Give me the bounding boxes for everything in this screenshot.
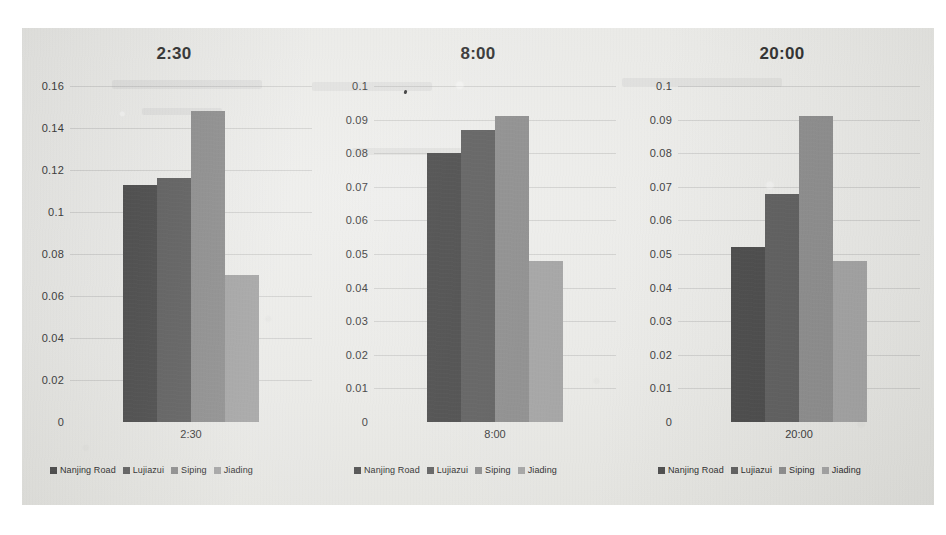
- y-axis-tick-label: 0.1: [326, 80, 368, 92]
- chart-title: 20:00: [630, 44, 934, 64]
- legend-item[interactable]: Jiading: [822, 465, 861, 475]
- bar: [731, 247, 765, 422]
- chart-panel: 2:3000.020.040.060.080.10.120.140.162:30…: [22, 28, 326, 505]
- x-axis-tick-label: 20:00: [678, 428, 920, 440]
- y-axis-tick-label: 0.04: [22, 332, 64, 344]
- legend-label: Lujiazui: [741, 465, 772, 475]
- y-axis-tick-label: 0.05: [630, 248, 672, 260]
- y-axis-tick-label: 0: [630, 416, 672, 428]
- plot-area: 00.010.020.030.040.050.060.070.080.090.1: [630, 86, 934, 422]
- y-axis-tick-label: 0.02: [630, 349, 672, 361]
- y-axis-tick-label: 0.03: [326, 315, 368, 327]
- bar: [833, 261, 867, 422]
- legend-swatch-icon: [427, 467, 434, 474]
- chart-title: 2:30: [22, 44, 326, 64]
- y-axis-tick-label: 0.05: [326, 248, 368, 260]
- legend-swatch-icon: [50, 467, 57, 474]
- chart-legend: Nanjing RoadLujiazuiSipingJiading: [354, 465, 620, 475]
- chart-panel: 8:0000.010.020.030.040.050.060.070.080.0…: [326, 28, 630, 505]
- legend-swatch-icon: [731, 467, 738, 474]
- bar: [123, 185, 157, 422]
- y-axis-tick-label: 0.07: [630, 181, 672, 193]
- y-axis-tick-label: 0.06: [326, 214, 368, 226]
- legend-item[interactable]: Siping: [475, 465, 511, 475]
- x-axis-tick-label: 2:30: [70, 428, 312, 440]
- legend-label: Nanjing Road: [60, 465, 116, 475]
- bar-group: [374, 86, 616, 422]
- legend-label: Jiading: [528, 465, 557, 475]
- legend-item[interactable]: Nanjing Road: [354, 465, 420, 475]
- y-axis-tick-label: 0.12: [22, 164, 64, 176]
- y-axis-tick-label: 0: [22, 416, 64, 428]
- legend-item[interactable]: Lujiazui: [123, 465, 164, 475]
- y-axis-tick-label: 0.04: [326, 282, 368, 294]
- bar: [529, 261, 563, 422]
- bar: [191, 111, 225, 422]
- legend-item[interactable]: Lujiazui: [427, 465, 468, 475]
- chart-legend: Nanjing RoadLujiazuiSipingJiading: [50, 465, 316, 475]
- chart-panel: 20:0000.010.020.030.040.050.060.070.080.…: [630, 28, 934, 505]
- legend-swatch-icon: [123, 467, 130, 474]
- bar: [427, 153, 461, 422]
- legend-swatch-icon: [658, 467, 665, 474]
- legend-label: Siping: [485, 465, 511, 475]
- plot-area: 00.020.040.060.080.10.120.140.16: [22, 86, 326, 422]
- legend-label: Nanjing Road: [668, 465, 724, 475]
- y-axis-tick-label: 0.01: [630, 382, 672, 394]
- legend-item[interactable]: Nanjing Road: [50, 465, 116, 475]
- plot-area: 00.010.020.030.040.050.060.070.080.090.1: [326, 86, 630, 422]
- y-axis-tick-label: 0.08: [22, 248, 64, 260]
- y-axis-tick-label: 0.1: [22, 206, 64, 218]
- y-axis-tick-label: 0.06: [22, 290, 64, 302]
- bar-group: [678, 86, 920, 422]
- y-axis-tick-label: 0.08: [326, 147, 368, 159]
- bar: [765, 194, 799, 422]
- chart-legend: Nanjing RoadLujiazuiSipingJiading: [658, 465, 924, 475]
- legend-label: Jiading: [224, 465, 253, 475]
- scanned-page: 2:3000.020.040.060.080.10.120.140.162:30…: [22, 28, 934, 505]
- legend-swatch-icon: [354, 467, 361, 474]
- legend-label: Lujiazui: [437, 465, 468, 475]
- legend-label: Lujiazui: [133, 465, 164, 475]
- y-axis-tick-label: 0.02: [326, 349, 368, 361]
- legend-item[interactable]: Jiading: [214, 465, 253, 475]
- y-axis-tick-label: 0.02: [22, 374, 64, 386]
- legend-label: Nanjing Road: [364, 465, 420, 475]
- legend-label: Siping: [789, 465, 815, 475]
- bar: [225, 275, 259, 422]
- y-axis-tick-label: 0.01: [326, 382, 368, 394]
- y-axis-tick-label: 0.09: [326, 114, 368, 126]
- legend-item[interactable]: Nanjing Road: [658, 465, 724, 475]
- legend-swatch-icon: [475, 467, 482, 474]
- y-axis-tick-label: 0.07: [326, 181, 368, 193]
- y-axis-tick-label: 0.06: [630, 214, 672, 226]
- y-axis-tick-label: 0.04: [630, 282, 672, 294]
- legend-swatch-icon: [822, 467, 829, 474]
- bar: [461, 130, 495, 422]
- y-axis-tick-label: 0: [326, 416, 368, 428]
- bar: [495, 116, 529, 422]
- legend-item[interactable]: Jiading: [518, 465, 557, 475]
- legend-item[interactable]: Siping: [171, 465, 207, 475]
- y-axis-tick-label: 0.14: [22, 122, 64, 134]
- y-axis-tick-label: 0.16: [22, 80, 64, 92]
- legend-swatch-icon: [214, 467, 221, 474]
- legend-label: Jiading: [832, 465, 861, 475]
- chart-panel-group: 2:3000.020.040.060.080.10.120.140.162:30…: [22, 28, 934, 505]
- legend-item[interactable]: Lujiazui: [731, 465, 772, 475]
- legend-item[interactable]: Siping: [779, 465, 815, 475]
- y-axis-tick-label: 0.1: [630, 80, 672, 92]
- chart-title: 8:00: [326, 44, 630, 64]
- bar: [799, 116, 833, 422]
- legend-label: Siping: [181, 465, 207, 475]
- legend-swatch-icon: [171, 467, 178, 474]
- y-axis-tick-label: 0.03: [630, 315, 672, 327]
- bar: [157, 178, 191, 422]
- y-axis-tick-label: 0.09: [630, 114, 672, 126]
- bar-group: [70, 86, 312, 422]
- x-axis-tick-label: 8:00: [374, 428, 616, 440]
- legend-swatch-icon: [779, 467, 786, 474]
- y-axis-tick-label: 0.08: [630, 147, 672, 159]
- legend-swatch-icon: [518, 467, 525, 474]
